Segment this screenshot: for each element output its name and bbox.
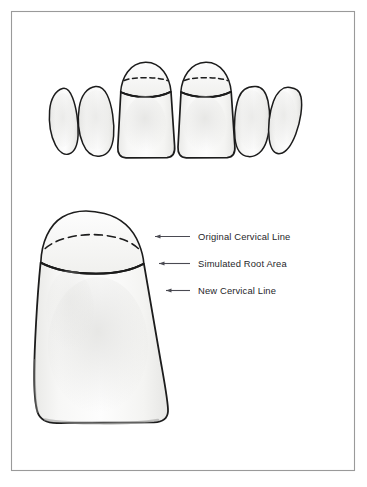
annotation-label: New Cervical Line <box>198 285 276 296</box>
annotation-label: Simulated Root Area <box>198 258 287 269</box>
tooth-lateral-incisor-right <box>234 86 269 156</box>
tooth-shading <box>81 90 111 150</box>
tooth-central-incisor-right <box>178 62 235 158</box>
tooth-shading-secondary <box>46 270 94 350</box>
tooth-shading <box>272 91 296 145</box>
tooth-shading <box>237 90 267 150</box>
annotation-label: Original Cervical Line <box>198 231 290 242</box>
dental-diagram-figure: Original Cervical Line Simulated Root Ar… <box>0 0 367 487</box>
diagram-canvas: Original Cervical Line Simulated Root Ar… <box>0 0 367 487</box>
tooth-lateral-incisor-left <box>78 86 113 156</box>
tooth-shading <box>124 96 166 152</box>
tooth-shading <box>184 96 226 152</box>
tooth-shading <box>52 93 74 147</box>
tooth-central-incisor-left <box>118 62 175 158</box>
